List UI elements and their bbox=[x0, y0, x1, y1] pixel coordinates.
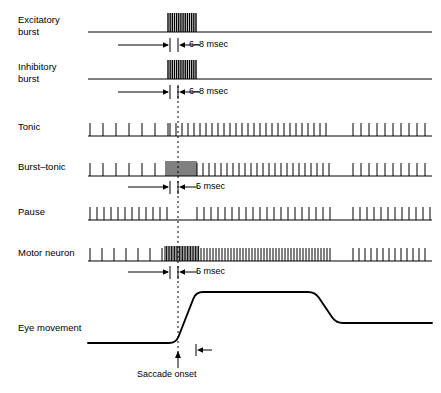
saccade-onset-label: Saccade onset bbox=[137, 369, 197, 379]
annotation-motor-neuron-duration: 5 msec bbox=[196, 266, 225, 276]
neuron-discharge-figure: Excitatory burst Inhibitory burst Tonic … bbox=[0, 0, 441, 393]
annotation-bracket-excitatory bbox=[118, 38, 200, 52]
trace-motor-neuron bbox=[88, 246, 432, 261]
annotation-bracket-burst-tonic bbox=[128, 181, 198, 194]
trace-pause bbox=[88, 207, 432, 220]
annotation-bracket-motor-neuron bbox=[128, 266, 198, 279]
traces-canvas bbox=[0, 0, 441, 393]
trace-tonic bbox=[88, 123, 432, 136]
trace-burst-tonic bbox=[88, 161, 432, 176]
annotation-excitatory-duration: 6–8 msec bbox=[189, 39, 228, 49]
saccade-duration-tick bbox=[196, 344, 212, 356]
trace-inhibitory-burst bbox=[88, 60, 432, 79]
saccade-onset-arrow-icon bbox=[175, 351, 181, 368]
annotation-inhibitory-duration: 6–8 msec bbox=[189, 86, 228, 96]
trace-excitatory-burst bbox=[88, 13, 432, 32]
trace-eye-movement bbox=[88, 292, 432, 343]
annotation-bracket-inhibitory bbox=[118, 85, 200, 99]
annotation-burst-tonic-duration: 5 msec bbox=[196, 181, 225, 191]
